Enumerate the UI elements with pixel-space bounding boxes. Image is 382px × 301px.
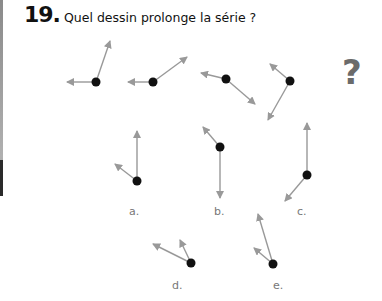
- option-figure-a[interactable]: [115, 131, 142, 186]
- arrow-icon: [226, 79, 255, 104]
- arrow-icon: [258, 214, 273, 264]
- series-figure-1: [67, 41, 110, 87]
- dot-icon: [149, 78, 158, 87]
- answer-options: [115, 123, 312, 269]
- option-figure-b[interactable]: [203, 127, 225, 198]
- figure-canvas: [0, 0, 382, 301]
- question-mark-icon: ?: [342, 52, 362, 92]
- dot-icon: [187, 259, 196, 268]
- series-figure-2: [128, 57, 187, 87]
- series-figure-3: [201, 73, 255, 104]
- arrow-icon: [96, 41, 110, 82]
- arrow-icon: [153, 244, 191, 263]
- option-figure-c[interactable]: [285, 123, 312, 201]
- dot-icon: [216, 143, 225, 152]
- series-figures: [67, 41, 295, 120]
- dot-icon: [269, 260, 278, 269]
- option-figure-e[interactable]: [254, 214, 278, 269]
- dot-icon: [303, 171, 312, 180]
- arrow-icon: [268, 81, 290, 120]
- dot-icon: [286, 77, 295, 86]
- dot-icon: [92, 78, 101, 87]
- option-label-d[interactable]: d.: [172, 279, 182, 292]
- option-label-b[interactable]: b.: [214, 205, 224, 218]
- arrow-icon: [285, 175, 307, 201]
- option-label-a[interactable]: a.: [129, 205, 139, 218]
- option-figure-d[interactable]: [153, 240, 196, 268]
- option-label-e[interactable]: e.: [273, 279, 283, 292]
- arrow-icon: [153, 57, 187, 82]
- dot-icon: [133, 177, 142, 186]
- option-label-c[interactable]: c.: [297, 205, 307, 218]
- dot-icon: [222, 75, 231, 84]
- series-figure-4: [268, 64, 295, 120]
